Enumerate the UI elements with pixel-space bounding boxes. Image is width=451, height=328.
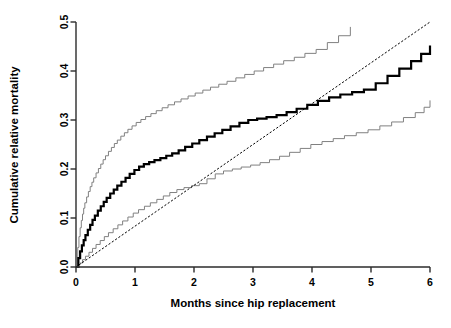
chart-figure: 01234560.00.10.20.30.40.5 Months since h… — [0, 0, 451, 328]
y-axis-tick-label: 0.2 — [58, 162, 70, 177]
y-axis-title: Cumulative relative mortality — [8, 66, 20, 224]
x-axis-tick-label: 5 — [368, 276, 374, 288]
y-axis-tick-label: 0.5 — [58, 15, 70, 30]
x-axis-tick-label: 1 — [132, 276, 138, 288]
series-layer — [76, 22, 430, 267]
cumulative-relative-mortality-chart: 01234560.00.10.20.30.40.5 Months since h… — [0, 0, 451, 328]
x-axis-tick-label: 2 — [191, 276, 197, 288]
y-axis-tick-label: 0.4 — [58, 64, 70, 79]
x-axis-tick-label: 3 — [250, 276, 256, 288]
x-axis-tick-label: 0 — [73, 276, 79, 288]
y-axis-tick-label: 0.0 — [58, 260, 70, 275]
series-upper-95-confidence-limit — [76, 27, 350, 267]
x-axis-title: Months since hip replacement — [171, 297, 336, 309]
series-reference-line — [76, 22, 430, 267]
series-lower-95-confidence-limit — [76, 100, 430, 267]
y-axis-tick-label: 0.1 — [58, 211, 70, 226]
series-cumulative-relative-mortality-estimate — [76, 46, 430, 267]
x-axis-tick-label: 6 — [427, 276, 433, 288]
tick-labels-layer: 01234560.00.10.20.30.40.5 — [58, 15, 433, 288]
y-axis-tick-label: 0.3 — [58, 113, 70, 128]
x-axis-tick-label: 4 — [309, 276, 315, 288]
